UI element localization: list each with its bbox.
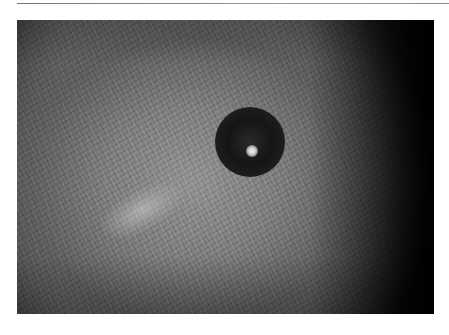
top-rule-divider — [17, 3, 449, 4]
pigmented-lesion — [215, 107, 285, 177]
lesion-reflection-highlight — [246, 145, 258, 157]
